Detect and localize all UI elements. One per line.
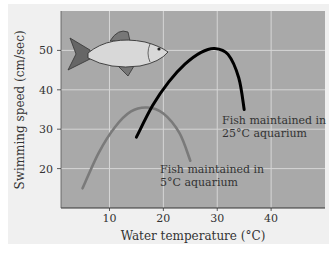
- y-axis-label: Swimming speed (cm/sec): [13, 30, 27, 189]
- series-label: 25°C aquarium: [222, 127, 308, 140]
- x-tick-label: 20: [156, 212, 170, 225]
- y-tick-label: 40: [39, 84, 53, 97]
- x-axis-label: Water temperature (°C): [121, 229, 266, 243]
- series-label: Fish maintained in: [160, 163, 264, 176]
- y-tick-label: 50: [39, 44, 53, 57]
- series-label: Fish maintained in: [222, 114, 326, 127]
- x-tick-label: 40: [264, 212, 278, 225]
- series-label: 5°C aquarium: [160, 176, 239, 189]
- y-tick-label: 20: [39, 163, 53, 176]
- x-tick-label: 30: [210, 212, 224, 225]
- figure: 1020304020304050 Fish maintained in5°C a…: [0, 0, 329, 256]
- line-chart: 1020304020304050 Fish maintained in5°C a…: [0, 0, 329, 256]
- x-tick-label: 10: [102, 212, 116, 225]
- y-tick-label: 30: [39, 123, 53, 136]
